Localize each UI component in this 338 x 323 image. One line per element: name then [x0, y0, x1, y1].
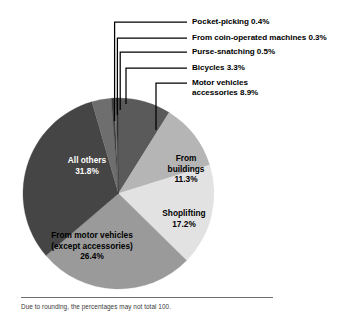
callout-label-purse-snatching: Purse-snatching 0.5% — [192, 47, 275, 57]
pie-chart-figure: Pocket-picking 0.4% From coin-operated m… — [0, 0, 338, 323]
footnote-divider — [21, 297, 273, 298]
slice-label-from-motor-vehicles: From motor vehicles (except accessories)… — [22, 230, 162, 262]
slice-label-from-motor-vehicles-value: 26.4% — [80, 251, 104, 261]
slice-label-from-buildings-line2: buildings — [168, 164, 205, 174]
slice-label-from-motor-vehicles-line1: From motor vehicles — [51, 230, 133, 240]
slice-label-all-others-line1: All others — [68, 155, 106, 165]
slice-label-shoplifting-value: 17.2% — [172, 219, 196, 229]
slice-label-from-buildings: From buildings 11.3% — [148, 153, 224, 185]
footnote-text: Due to rounding, the percentages may not… — [21, 303, 171, 310]
callout-label-coin-operated-machines: From coin-operated machines 0.3% — [192, 33, 327, 43]
slice-label-from-buildings-line1: From — [176, 153, 197, 163]
callout-label-bicycles: Bicycles 3.3% — [192, 63, 245, 73]
slice-label-all-others: All others 31.8% — [42, 155, 132, 176]
callout-label-motor-vehicles-accessories-line1: Motor vehicles — [192, 78, 248, 87]
slice-label-from-motor-vehicles-line2: (except accessories) — [51, 241, 133, 251]
slice-label-from-buildings-value: 11.3% — [174, 174, 197, 184]
slice-label-shoplifting: Shoplifting 17.2% — [140, 208, 228, 229]
callout-label-pocket-picking: Pocket-picking 0.4% — [192, 17, 269, 27]
callout-label-motor-vehicles-accessories: Motor vehicles accessories 8.9% — [192, 78, 258, 99]
slice-label-all-others-value: 31.8% — [75, 166, 99, 176]
callout-label-motor-vehicles-accessories-line2: accessories 8.9% — [192, 88, 258, 97]
slice-label-shoplifting-line1: Shoplifting — [162, 208, 205, 218]
